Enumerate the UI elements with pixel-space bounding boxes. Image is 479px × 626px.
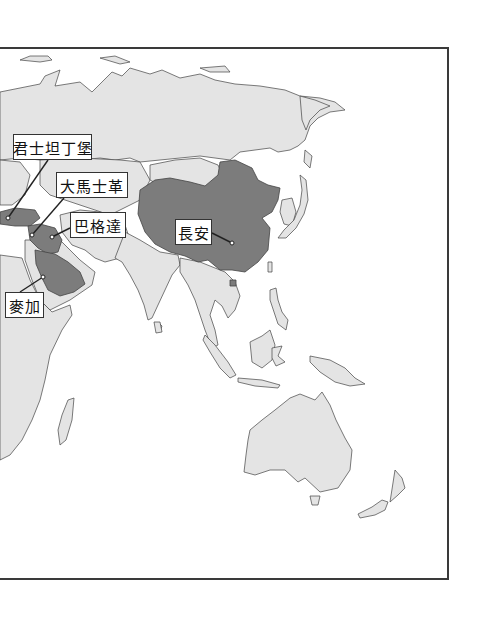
city-point-baghdad [50, 235, 54, 239]
city-label-baghdad: 巴格達 [70, 212, 126, 238]
city-label-constantinople: 君士坦丁堡 [13, 134, 92, 160]
city-label-changan: 長安 [175, 219, 212, 245]
city-point-mecca [41, 275, 45, 279]
city-point-changan [230, 241, 234, 245]
landmass-southeast-asia [180, 258, 240, 348]
map-canvas [0, 0, 479, 626]
region-hainan [230, 280, 236, 286]
city-label-damascus: 大馬士革 [56, 172, 128, 198]
city-point-damascus [30, 233, 34, 237]
city-label-mecca: 麥加 [5, 292, 44, 318]
city-point-constantinople [6, 216, 10, 220]
landmass-new-zealand [358, 470, 405, 518]
landmass-australia [244, 392, 352, 492]
